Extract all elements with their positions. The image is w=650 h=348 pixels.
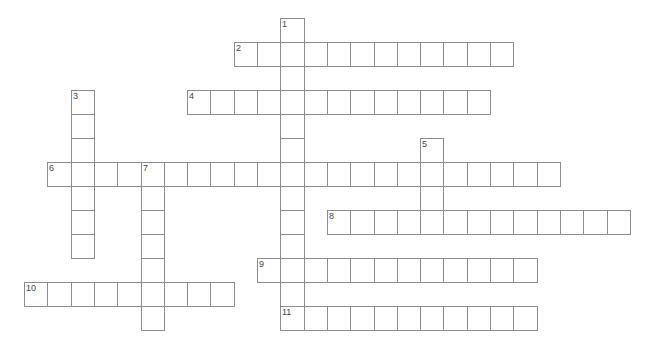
crossword-cell[interactable] <box>280 66 305 91</box>
crossword-cell[interactable] <box>234 162 258 187</box>
crossword-cell[interactable] <box>443 258 468 283</box>
crossword-cell[interactable]: 11 <box>280 306 305 331</box>
crossword-cell[interactable] <box>443 42 468 67</box>
crossword-cell[interactable] <box>94 162 118 187</box>
crossword-cell[interactable] <box>443 162 468 187</box>
crossword-cell[interactable] <box>210 90 235 115</box>
crossword-cell[interactable] <box>71 162 95 187</box>
crossword-cell[interactable] <box>164 282 188 307</box>
crossword-cell[interactable]: 5 <box>420 138 444 163</box>
crossword-cell[interactable] <box>467 162 491 187</box>
crossword-cell[interactable] <box>583 210 608 235</box>
crossword-cell[interactable] <box>420 210 444 235</box>
crossword-cell[interactable] <box>327 90 351 115</box>
crossword-cell[interactable] <box>420 186 444 211</box>
crossword-cell[interactable]: 7 <box>141 162 165 187</box>
crossword-cell[interactable] <box>350 306 375 331</box>
crossword-cell[interactable] <box>71 186 95 211</box>
crossword-cell[interactable]: 2 <box>234 42 258 67</box>
crossword-cell[interactable] <box>141 210 165 235</box>
crossword-cell[interactable] <box>397 306 421 331</box>
crossword-cell[interactable] <box>210 162 235 187</box>
crossword-cell[interactable] <box>280 90 305 115</box>
crossword-cell[interactable] <box>420 258 444 283</box>
crossword-cell[interactable] <box>513 210 538 235</box>
crossword-cell[interactable] <box>350 42 375 67</box>
crossword-cell[interactable] <box>71 138 95 163</box>
crossword-cell[interactable] <box>420 306 444 331</box>
crossword-cell[interactable] <box>280 210 305 235</box>
crossword-cell[interactable] <box>280 138 305 163</box>
crossword-cell[interactable] <box>280 42 305 67</box>
crossword-cell[interactable] <box>513 162 538 187</box>
crossword-cell[interactable] <box>257 42 281 67</box>
crossword-cell[interactable] <box>397 162 421 187</box>
crossword-cell[interactable] <box>257 90 281 115</box>
crossword-cell[interactable] <box>467 210 491 235</box>
crossword-cell[interactable]: 10 <box>24 282 48 307</box>
crossword-cell[interactable] <box>141 306 165 331</box>
crossword-cell[interactable] <box>304 162 328 187</box>
crossword-cell[interactable] <box>350 162 375 187</box>
crossword-cell[interactable] <box>490 306 514 331</box>
crossword-cell[interactable] <box>397 42 421 67</box>
crossword-cell[interactable]: 4 <box>187 90 211 115</box>
crossword-cell[interactable] <box>537 210 561 235</box>
crossword-cell[interactable] <box>304 306 328 331</box>
crossword-cell[interactable] <box>304 258 328 283</box>
crossword-cell[interactable] <box>374 90 398 115</box>
crossword-cell[interactable] <box>467 42 491 67</box>
crossword-cell[interactable] <box>490 42 514 67</box>
crossword-cell[interactable]: 9 <box>257 258 281 283</box>
crossword-cell[interactable] <box>443 90 468 115</box>
crossword-cell[interactable] <box>280 234 305 259</box>
crossword-cell[interactable] <box>280 258 305 283</box>
crossword-cell[interactable] <box>71 234 95 259</box>
crossword-cell[interactable] <box>327 258 351 283</box>
crossword-cell[interactable] <box>443 210 468 235</box>
crossword-cell[interactable] <box>397 210 421 235</box>
crossword-cell[interactable] <box>71 210 95 235</box>
crossword-cell[interactable] <box>467 258 491 283</box>
crossword-cell[interactable] <box>187 162 211 187</box>
crossword-cell[interactable] <box>280 282 305 307</box>
crossword-cell[interactable]: 8 <box>327 210 351 235</box>
crossword-cell[interactable]: 1 <box>280 18 305 43</box>
crossword-cell[interactable] <box>117 162 142 187</box>
crossword-cell[interactable] <box>443 306 468 331</box>
crossword-cell[interactable] <box>490 258 514 283</box>
crossword-cell[interactable] <box>607 210 631 235</box>
crossword-cell[interactable] <box>490 210 514 235</box>
crossword-cell[interactable] <box>374 258 398 283</box>
crossword-cell[interactable] <box>467 90 491 115</box>
crossword-cell[interactable] <box>537 162 561 187</box>
crossword-cell[interactable] <box>327 162 351 187</box>
crossword-cell[interactable] <box>117 282 142 307</box>
crossword-cell[interactable] <box>280 114 305 139</box>
crossword-cell[interactable]: 6 <box>47 162 72 187</box>
crossword-cell[interactable] <box>141 186 165 211</box>
crossword-cell[interactable] <box>327 42 351 67</box>
crossword-cell[interactable] <box>490 162 514 187</box>
crossword-cell[interactable] <box>374 42 398 67</box>
crossword-cell[interactable] <box>280 162 305 187</box>
crossword-cell[interactable] <box>397 258 421 283</box>
crossword-cell[interactable] <box>210 282 235 307</box>
crossword-cell[interactable] <box>467 306 491 331</box>
crossword-cell[interactable] <box>374 306 398 331</box>
crossword-cell[interactable] <box>513 306 538 331</box>
crossword-cell[interactable] <box>187 282 211 307</box>
crossword-cell[interactable] <box>350 258 375 283</box>
crossword-cell[interactable] <box>374 210 398 235</box>
crossword-cell[interactable] <box>560 210 584 235</box>
crossword-cell[interactable] <box>420 90 444 115</box>
crossword-cell[interactable] <box>304 42 328 67</box>
crossword-cell[interactable] <box>374 162 398 187</box>
crossword-cell[interactable] <box>420 162 444 187</box>
crossword-cell[interactable] <box>141 282 165 307</box>
crossword-cell[interactable] <box>350 90 375 115</box>
crossword-cell[interactable] <box>280 186 305 211</box>
crossword-cell[interactable]: 3 <box>71 90 95 115</box>
crossword-cell[interactable] <box>47 282 72 307</box>
crossword-cell[interactable] <box>397 90 421 115</box>
